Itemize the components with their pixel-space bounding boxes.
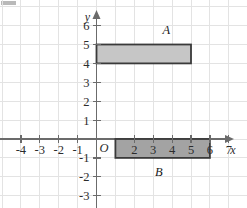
x-tick-label: 5 [188, 143, 194, 157]
coordinate-plane-figure: -4-3-2-1234567654321-1-2-3OxyAB [0, 0, 247, 208]
shape-label-b: B [155, 165, 163, 179]
x-tick-label: -3 [35, 143, 45, 157]
axis-lines [0, 10, 234, 208]
y-tick-label: -3 [79, 189, 89, 203]
y-tick-label: 4 [83, 57, 90, 71]
x-tick-label: 3 [150, 143, 156, 157]
plot-canvas: -4-3-2-1234567654321-1-2-3OxyAB [0, 0, 247, 208]
x-tick-label: -4 [16, 143, 27, 157]
grid-lines [0, 0, 247, 208]
y-tick-label: 3 [83, 76, 89, 90]
shape-rectangle-a [97, 45, 192, 64]
y-tick-label: 1 [83, 114, 89, 128]
y-tick-label: -2 [79, 170, 89, 184]
y-tick-label: 5 [83, 38, 89, 52]
x-tick-label: 4 [169, 143, 176, 157]
y-tick-label: -1 [79, 151, 89, 165]
text-labels: -4-3-2-1234567654321-1-2-3OxyAB [16, 10, 237, 203]
x-tick-label: -2 [53, 143, 63, 157]
origin-label: O [100, 141, 109, 155]
x-axis-name-label: x [229, 143, 236, 157]
shape-label-a: A [162, 23, 171, 37]
y-tick-label: 2 [83, 95, 89, 109]
x-tick-label: 2 [131, 143, 137, 157]
x-axis-arrow-icon [225, 135, 234, 143]
y-axis-name-label: y [84, 10, 91, 24]
y-axis-arrow-icon [93, 10, 101, 19]
x-tick-label: 6 [207, 143, 213, 157]
shape-rectangle-b [115, 139, 209, 158]
